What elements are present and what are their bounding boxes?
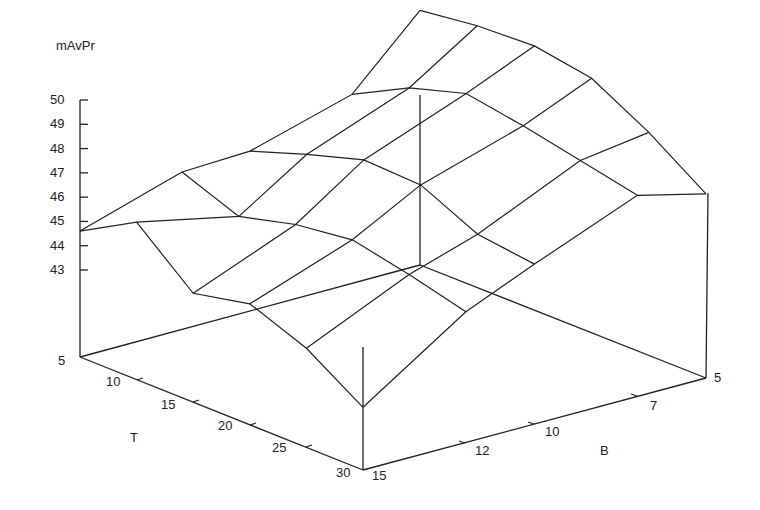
b-tick-label: 10 — [545, 424, 559, 439]
surface-row-t30 — [363, 194, 706, 407]
z-tick-label: 43 — [50, 262, 64, 277]
z-tick-label: 45 — [50, 213, 64, 228]
surface-row-t15 — [193, 46, 534, 293]
t-tick — [306, 445, 312, 447]
t-tick — [193, 400, 199, 402]
z-tick-label: 48 — [50, 141, 64, 156]
b-axis-line — [363, 378, 706, 470]
surface-plot — [0, 0, 760, 510]
b-tick-label: 15 — [372, 468, 386, 483]
b-tick-label: 5 — [714, 370, 721, 385]
b-tick — [528, 422, 534, 424]
t-tick-label: 15 — [161, 397, 175, 412]
z-tick-label: 49 — [50, 116, 64, 131]
t-tick-label: 25 — [272, 440, 286, 455]
surface-col-b5 — [420, 10, 706, 194]
b-tick — [459, 441, 465, 443]
t-axis-line — [80, 357, 363, 470]
surface-col-b15 — [80, 222, 363, 407]
surface-row-t25 — [306, 132, 648, 348]
z-tick-label: 50 — [50, 92, 64, 107]
surface-row-t20 — [250, 78, 592, 304]
t-tick-label: 20 — [218, 418, 232, 433]
t-tick-label: 10 — [106, 374, 120, 389]
t-tick-label: 30 — [336, 465, 350, 480]
right-corner-vertical — [706, 193, 708, 378]
back-right-edge — [420, 265, 706, 378]
surface-wireframe — [80, 10, 706, 407]
b-axis-label: B — [600, 443, 609, 458]
z-tick-label: 44 — [50, 238, 64, 253]
z-tick-label: 46 — [50, 189, 64, 204]
z-tick-label: 47 — [50, 165, 64, 180]
surface-row-t10 — [137, 26, 478, 223]
t-tick — [137, 378, 143, 380]
b-tick-label: 12 — [475, 443, 489, 458]
surface-row-t5 — [80, 10, 420, 231]
b-tick — [631, 394, 637, 396]
t-axis-label: T — [130, 430, 138, 445]
t-tick — [250, 423, 256, 425]
back-left-edge — [80, 265, 420, 357]
t-tick-label: 5 — [58, 353, 65, 368]
b-tick-label: 7 — [650, 398, 657, 413]
z-axis-label: mAvPr — [56, 38, 95, 53]
